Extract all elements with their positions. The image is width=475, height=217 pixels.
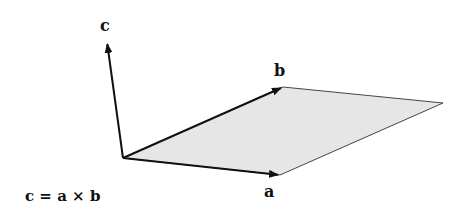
cross-product-formula: c = a × b <box>25 187 100 205</box>
label-c: c <box>100 16 110 35</box>
cross-product-diagram: c b a c = a × b <box>0 0 475 217</box>
vector-c-arrow <box>107 44 123 158</box>
label-a: a <box>264 182 274 201</box>
label-b: b <box>274 61 285 80</box>
parallelogram-area <box>123 87 443 175</box>
